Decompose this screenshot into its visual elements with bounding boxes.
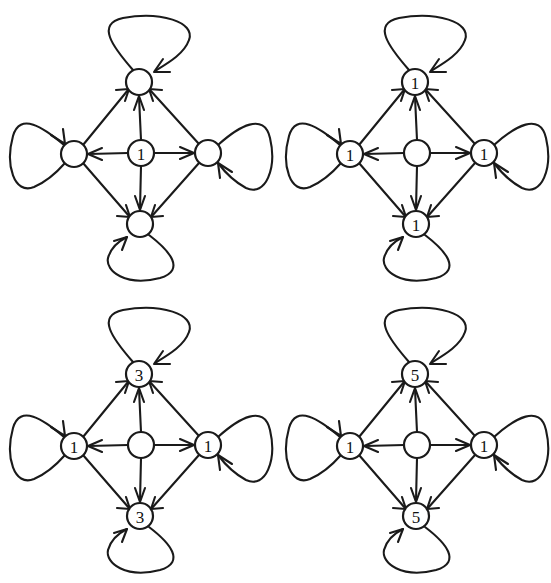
- self-loop-bottom: [108, 527, 174, 573]
- self-loop-bottom: [384, 235, 450, 281]
- node-top[interactable]: [126, 361, 152, 387]
- edge-center-to-bottom: [140, 166, 141, 209]
- edge-left-to-top: [83, 382, 128, 437]
- diagram-panel-bottom-right: 5 1 1 5: [276, 292, 551, 583]
- edge-left-to-top: [359, 382, 404, 437]
- nodes-group: 5 1 1 5: [337, 361, 497, 529]
- arrowhead-self-loop-left: [51, 421, 65, 436]
- arrowhead-self-loop-left: [51, 129, 65, 144]
- nodes-group: 1: [61, 69, 221, 237]
- edge-left-to-bottom: [359, 455, 405, 508]
- arrowhead-self-loop-left: [327, 421, 341, 436]
- self-loop-right: [218, 124, 272, 190]
- edge-right-to-bottom: [428, 455, 475, 508]
- self-loop-right: [218, 416, 272, 482]
- edge-right-to-bottom: [152, 163, 199, 216]
- edge-left-to-bottom: [83, 455, 129, 508]
- self-loop-top: [109, 308, 190, 363]
- self-loop-top: [385, 16, 466, 71]
- node-top[interactable]: [402, 69, 428, 95]
- node-bottom[interactable]: [127, 211, 153, 237]
- edge-center-to-bottom: [140, 458, 141, 501]
- self-loop-right: [494, 124, 548, 190]
- edge-center-to-left: [89, 445, 128, 446]
- diagram-panel-top-left: 1: [0, 0, 275, 291]
- node-left[interactable]: [61, 141, 87, 167]
- node-center[interactable]: [128, 140, 154, 166]
- figure-four-digraphs: 1: [0, 0, 551, 583]
- nodes-group: 3 1 1 3: [61, 361, 221, 529]
- self-loop-right: [494, 416, 548, 482]
- edge-left-to-bottom: [359, 163, 405, 216]
- edge-right-to-bottom: [428, 163, 475, 216]
- node-top[interactable]: [126, 69, 152, 95]
- self-loop-bottom: [108, 235, 174, 281]
- edge-right-to-top: [426, 90, 475, 144]
- node-right[interactable]: [195, 140, 221, 166]
- diagram-panel-top-right: 1 1 1 1: [276, 0, 551, 291]
- self-loop-top: [109, 16, 190, 71]
- edge-center-to-left: [89, 153, 128, 154]
- edge-right-to-bottom: [152, 455, 199, 508]
- node-bottom[interactable]: [127, 503, 153, 529]
- edge-center-to-left: [365, 445, 404, 446]
- node-right[interactable]: [471, 140, 497, 166]
- edge-right-to-top: [150, 90, 199, 144]
- edge-center-to-bottom: [416, 166, 417, 209]
- node-left[interactable]: [337, 433, 363, 459]
- node-bottom[interactable]: [403, 503, 429, 529]
- node-center[interactable]: [404, 140, 430, 166]
- self-loop-bottom: [384, 527, 450, 573]
- node-center[interactable]: [128, 432, 154, 458]
- node-left[interactable]: [337, 141, 363, 167]
- edge-left-to-top: [359, 90, 404, 145]
- edge-right-to-top: [150, 382, 199, 436]
- node-right[interactable]: [195, 432, 221, 458]
- node-bottom[interactable]: [403, 211, 429, 237]
- edge-left-to-top: [83, 90, 128, 145]
- edge-right-to-top: [426, 382, 475, 436]
- edge-left-to-bottom: [83, 163, 129, 216]
- node-right[interactable]: [471, 432, 497, 458]
- self-loop-left: [10, 416, 65, 481]
- self-loop-left: [286, 416, 341, 481]
- node-top[interactable]: [402, 361, 428, 387]
- arrowhead-self-loop-left: [327, 129, 341, 144]
- node-left[interactable]: [61, 433, 87, 459]
- edge-center-to-bottom: [416, 458, 417, 501]
- self-loop-left: [286, 124, 341, 189]
- edge-center-to-left: [365, 153, 404, 154]
- self-loop-top: [385, 308, 466, 363]
- node-center[interactable]: [404, 432, 430, 458]
- self-loop-left: [10, 124, 65, 189]
- diagram-panel-bottom-left: 3 1 1 3: [0, 292, 275, 583]
- nodes-group: 1 1 1 1: [337, 69, 497, 237]
